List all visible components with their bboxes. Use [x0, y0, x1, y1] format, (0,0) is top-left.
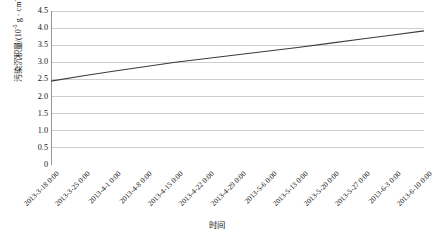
- chart-container: 污染沉积量/(10-5 g · cm-2) 00.51.01.52.02.53.…: [0, 0, 433, 241]
- x-axis-title: 时间: [0, 222, 433, 230]
- x-axis-tick-labels: 2013-3-18 0:002013-3-25 0:002013-4-1 0:0…: [0, 0, 433, 241]
